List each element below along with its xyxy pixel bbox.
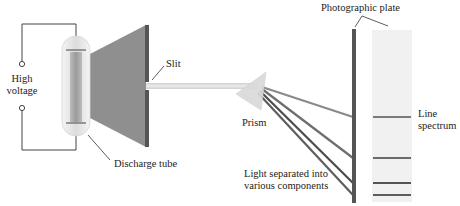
terminal-bottom-icon — [19, 105, 24, 110]
slit-label: Slit — [166, 58, 181, 70]
discharge-tube-label: Discharge tube — [114, 158, 177, 170]
photographic-plate-bar — [352, 29, 356, 203]
line-spectrum-label: Line spectrum — [418, 108, 457, 132]
high-voltage-label-line1: High — [4, 73, 40, 85]
high-voltage-label-line2: voltage — [4, 85, 40, 97]
light-separated-label-line2: various components — [244, 180, 328, 192]
slit-leader — [152, 66, 164, 80]
light-cone — [90, 25, 146, 147]
discharge-tube — [62, 36, 90, 136]
photographic-plate-label: Photographic plate — [321, 2, 400, 14]
terminal-top-icon — [19, 61, 24, 66]
light-beam — [146, 83, 258, 89]
photographic-plate-leaders — [355, 16, 388, 27]
light-separated-label: Light separated into various components — [244, 168, 328, 192]
discharge-tube-leader — [88, 135, 110, 160]
line-spectrum-label-line2: spectrum — [418, 120, 457, 132]
prism-label: Prism — [242, 117, 267, 129]
high-voltage-label: High voltage — [4, 73, 40, 97]
line-spectrum-label-line1: Line — [418, 108, 457, 120]
light-separated-label-line1: Light separated into — [244, 168, 328, 180]
prism — [236, 72, 266, 110]
line-spectrum-apparatus-diagram — [0, 0, 460, 206]
